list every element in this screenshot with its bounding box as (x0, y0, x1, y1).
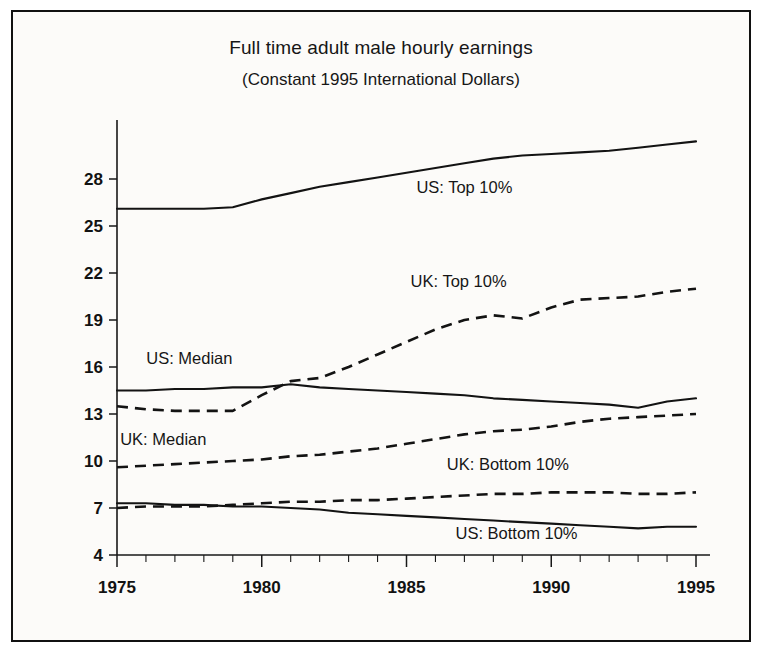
y-axis-tick-label: 13 (84, 405, 103, 424)
axis-tick-labels: 471013161922252819751980198519901995 (84, 170, 715, 597)
y-axis-tick-label: 7 (94, 499, 103, 518)
x-axis-tick-label: 1985 (388, 578, 426, 597)
y-axis-tick-label: 28 (84, 170, 103, 189)
y-axis-tick-label: 25 (84, 217, 103, 236)
y-axis-tick-label: 22 (84, 264, 103, 283)
series-line (117, 503, 696, 528)
series-line (117, 141, 696, 208)
y-axis-tick-label: 16 (84, 358, 103, 377)
series-label: UK: Top 10% (411, 272, 507, 290)
x-axis-tick-label: 1980 (243, 578, 281, 597)
series-label: UK: Bottom 10% (447, 455, 569, 473)
line-chart-plot: 471013161922252819751980198519901995 US:… (13, 12, 753, 644)
y-axis-tick-label: 4 (94, 546, 104, 565)
y-axis-tick-label: 10 (84, 452, 103, 471)
axes-group (109, 120, 710, 567)
figure-frame: Full time adult male hourly earnings (Co… (11, 10, 751, 642)
x-axis-tick-label: 1995 (677, 578, 715, 597)
series-labels-group: US: Top 10%UK: Top 10%US: MedianUK: Medi… (120, 178, 578, 542)
series-label: US: Top 10% (416, 178, 512, 196)
series-line (117, 384, 696, 408)
series-label: US: Median (146, 349, 232, 367)
series-label: UK: Median (120, 430, 206, 448)
x-axis-tick-label: 1975 (98, 578, 136, 597)
y-axis-tick-label: 19 (84, 311, 103, 330)
x-axis-tick-label: 1990 (532, 578, 570, 597)
data-series-group (117, 141, 696, 528)
series-label: US: Bottom 10% (456, 524, 578, 542)
